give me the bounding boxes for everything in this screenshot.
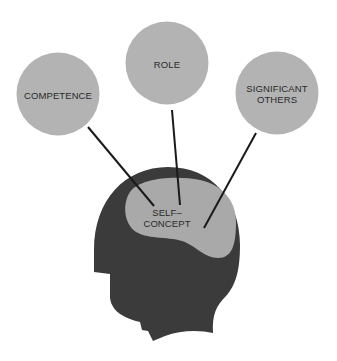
label-self-line1: SELF–	[143, 207, 190, 218]
label-significant-line1: SIGNIFICANT	[246, 83, 307, 94]
label-competence-text: COMPETENCE	[24, 90, 92, 101]
label-role-text: ROLE	[154, 59, 180, 70]
diagram-canvas	[0, 0, 337, 361]
label-self-line2: CONCEPT	[143, 218, 190, 229]
label-self-concept: SELF– CONCEPT	[143, 207, 190, 229]
label-significant-others: SIGNIFICANT OTHERS	[246, 83, 307, 105]
label-significant-line2: OTHERS	[246, 94, 307, 105]
label-role: ROLE	[154, 59, 180, 70]
label-competence: COMPETENCE	[24, 90, 92, 101]
